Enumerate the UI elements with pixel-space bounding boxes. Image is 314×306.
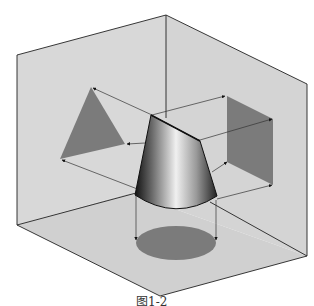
circle-projection xyxy=(136,226,216,260)
projection-diagram xyxy=(0,0,314,306)
figure-caption: 图1-2 xyxy=(136,296,167,306)
